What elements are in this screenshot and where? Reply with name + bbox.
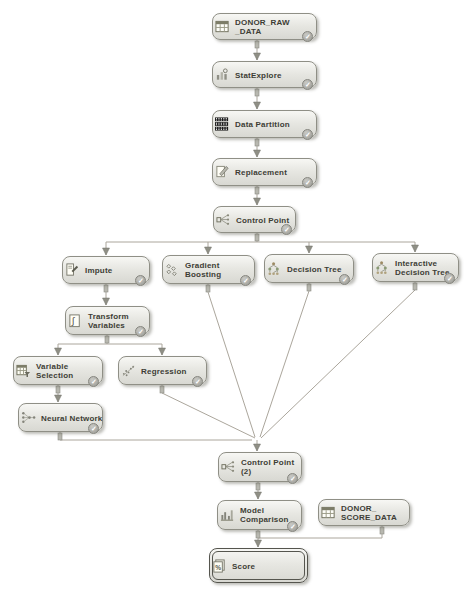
connector-stub xyxy=(307,284,311,291)
status-check-icon: ✓ xyxy=(302,31,313,42)
arrowhead-icon xyxy=(254,150,261,157)
connector-stub xyxy=(105,336,109,343)
node-replacement[interactable]: Replacement✓ xyxy=(212,158,317,186)
regression-icon xyxy=(121,363,136,378)
connector-stub xyxy=(380,527,384,534)
table-icon xyxy=(215,19,230,34)
node-label: Control Point xyxy=(236,215,289,224)
svg-text:%: % xyxy=(215,563,221,570)
node-label: StatExplore xyxy=(235,70,282,79)
tree-icon xyxy=(375,260,390,275)
partition-icon xyxy=(215,117,230,132)
node-label: DONOR_RAW_DATA xyxy=(235,18,290,36)
node-label: Control Point(2) xyxy=(241,458,294,476)
node-donor-score-data[interactable]: DONOR_SCORE_DATA xyxy=(318,499,410,526)
arrowhead-icon xyxy=(254,53,261,60)
arrowhead-icon xyxy=(255,540,262,547)
node-label: InteractiveDecision Tree xyxy=(395,259,450,277)
control-icon xyxy=(216,212,231,227)
arrowhead-icon xyxy=(255,492,262,499)
node-donor-raw-data[interactable]: DONOR_RAW_DATA✓ xyxy=(212,13,317,40)
edge-line xyxy=(260,283,309,437)
node-regression[interactable]: Regression✓ xyxy=(118,356,207,385)
arrowhead-icon xyxy=(254,102,261,109)
node-control-point-2[interactable]: Control Point(2)✓ xyxy=(218,452,302,482)
node-label: ModelComparison xyxy=(240,506,289,524)
node-impute[interactable]: Impute✓ xyxy=(62,256,150,284)
connector-stub xyxy=(56,386,60,393)
status-check-icon: ✓ xyxy=(287,473,298,484)
arrowhead-icon xyxy=(103,248,110,255)
status-check-icon: ✓ xyxy=(302,129,313,140)
node-label: Score xyxy=(232,561,255,570)
score-icon: % xyxy=(212,558,227,573)
comparison-icon xyxy=(220,508,235,523)
neural-icon xyxy=(21,410,36,425)
status-check-icon: ✓ xyxy=(444,273,455,284)
connector-stub xyxy=(256,531,260,538)
status-check-icon: ✓ xyxy=(281,224,292,235)
node-label: VariableSelection xyxy=(36,362,73,380)
node-label: Impute xyxy=(85,266,112,275)
connector-stub xyxy=(58,433,62,440)
transform-icon: ∫ xyxy=(68,313,83,328)
node-label: Data Partition xyxy=(235,120,290,129)
node-label: DONOR_SCORE_DATA xyxy=(341,504,397,522)
node-variable-selection[interactable]: VariableSelection✓ xyxy=(13,356,103,385)
arrowhead-icon xyxy=(306,246,313,253)
node-interactive-decision-tree[interactable]: InteractiveDecision Tree✓ xyxy=(372,253,459,282)
arrowhead-icon xyxy=(205,247,212,254)
edge-line xyxy=(60,432,252,440)
connector-stub xyxy=(255,139,259,146)
status-check-icon: ✓ xyxy=(88,423,99,434)
arrowhead-icon xyxy=(254,444,261,451)
node-transform-variables[interactable]: ∫TransformVariables✓ xyxy=(65,306,150,335)
node-model-comparison[interactable]: ModelComparison✓ xyxy=(217,500,302,530)
node-data-partition[interactable]: Data Partition✓ xyxy=(212,110,317,138)
node-neural-network[interactable]: Neural Network✓ xyxy=(18,403,103,432)
arrowhead-icon xyxy=(254,198,261,205)
status-check-icon: ✓ xyxy=(302,177,313,188)
connector-stub xyxy=(255,41,259,48)
node-label: Neural Network xyxy=(41,413,102,422)
table-icon xyxy=(321,505,336,520)
arrowhead-icon xyxy=(55,395,62,402)
connector-stub xyxy=(256,483,260,490)
connector-stub xyxy=(206,285,210,292)
node-label: GradientBoosting xyxy=(185,261,221,279)
status-check-icon: ✓ xyxy=(287,521,298,532)
connector-stub xyxy=(104,285,108,292)
arrowhead-icon xyxy=(412,245,419,252)
status-check-icon: ✓ xyxy=(135,275,146,286)
status-check-icon: ✓ xyxy=(88,376,99,387)
node-control-point[interactable]: Control Point✓ xyxy=(213,206,296,233)
node-label: Regression xyxy=(141,366,187,375)
node-decision-tree[interactable]: Decision Tree✓ xyxy=(264,254,354,283)
status-check-icon: ✓ xyxy=(302,79,313,90)
tree-icon xyxy=(267,261,282,276)
connector-stub xyxy=(413,283,417,290)
connector-stub xyxy=(255,234,259,241)
varsel-icon xyxy=(16,363,31,378)
status-check-icon: ✓ xyxy=(135,326,146,337)
explore-icon xyxy=(215,67,230,82)
arrowhead-icon xyxy=(55,348,62,355)
replacement-icon xyxy=(215,165,230,180)
node-label: Decision Tree xyxy=(287,264,342,273)
node-label: TransformVariables xyxy=(88,312,129,330)
status-check-icon: ✓ xyxy=(339,274,350,285)
status-check-icon: ✓ xyxy=(240,275,251,286)
status-check-icon: ✓ xyxy=(192,376,203,387)
node-statexplore[interactable]: StatExplore✓ xyxy=(212,61,317,88)
node-score[interactable]: %Score xyxy=(209,548,308,583)
edge-line xyxy=(261,282,415,438)
arrowhead-icon xyxy=(159,348,166,355)
impute-icon xyxy=(65,263,80,278)
process-flow-canvas[interactable]: DONOR_RAW_DATA✓StatExplore✓Data Partitio… xyxy=(0,0,470,593)
node-label: Replacement xyxy=(235,168,287,177)
connector-stub xyxy=(255,89,259,96)
connector-stub xyxy=(160,386,164,393)
connector-stub xyxy=(255,187,259,194)
node-gradient-boosting[interactable]: GradientBoosting✓ xyxy=(162,255,255,284)
control-icon xyxy=(221,460,236,475)
